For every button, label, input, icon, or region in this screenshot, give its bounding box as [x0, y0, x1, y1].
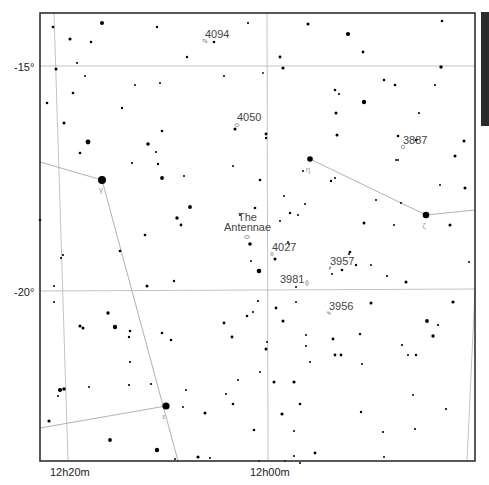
star-icon	[254, 207, 257, 210]
star-icon	[400, 202, 402, 204]
star-icon	[265, 348, 268, 351]
object-label: 3957	[330, 255, 354, 267]
star-icon	[185, 389, 187, 391]
star-icon	[161, 332, 164, 335]
star-icon	[362, 100, 366, 104]
star-icon	[108, 438, 112, 442]
star-icon	[299, 403, 302, 406]
star-icon	[437, 324, 439, 326]
star-icon	[414, 428, 416, 430]
star-icon	[441, 20, 444, 23]
star-chart: 409440503887TheAntennae4027395739813956 …	[0, 0, 489, 485]
star-icon	[282, 320, 285, 323]
star-icon	[72, 92, 75, 95]
star-icon	[84, 75, 86, 77]
declination-line	[40, 289, 475, 291]
star-icon	[336, 134, 339, 137]
star-icon	[175, 216, 178, 219]
star-icon	[183, 175, 185, 177]
star-icon	[439, 65, 442, 68]
constellation-line	[102, 180, 178, 461]
star-icon	[362, 51, 365, 54]
star-icon	[237, 379, 239, 381]
star-icon	[129, 330, 132, 333]
deep-sky-objects: 409440503887TheAntennae4027395739813956	[202, 28, 427, 315]
star-icon	[155, 448, 159, 452]
star-icon	[439, 184, 441, 186]
star-icon	[53, 301, 55, 303]
star-icon	[314, 452, 317, 455]
deep-sky-object[interactable]: 4094	[202, 28, 229, 43]
star-icon	[100, 21, 104, 25]
star-icon	[397, 159, 399, 161]
star-icon	[106, 311, 109, 314]
constellation-line	[310, 159, 426, 215]
star-icon	[265, 137, 267, 139]
star-icon	[454, 155, 457, 158]
star-icon	[334, 89, 337, 92]
star-icon	[121, 107, 123, 109]
star-icon	[341, 269, 344, 272]
star-icon	[468, 261, 470, 263]
star-icon	[90, 41, 93, 44]
star-icon	[423, 212, 430, 219]
star-icon	[331, 273, 333, 275]
deep-sky-object[interactable]: 3981	[280, 273, 308, 286]
star-icon	[361, 363, 363, 365]
star-icon	[180, 224, 183, 227]
star-icon	[232, 165, 234, 167]
star-icon	[146, 285, 149, 288]
star-icon	[434, 84, 436, 86]
star-icon	[62, 254, 64, 256]
star-icon	[259, 179, 262, 182]
star-icon	[52, 26, 55, 29]
deep-sky-object[interactable]: 3887	[401, 134, 427, 149]
star-icon	[57, 395, 59, 397]
right-ascension-line	[467, 290, 475, 461]
star-icon	[204, 412, 207, 415]
star-icon	[250, 260, 252, 262]
deep-sky-object[interactable]: 3957	[329, 255, 355, 270]
deep-sky-object[interactable]: Antennae	[224, 221, 271, 239]
deep-sky-object[interactable]: 3956	[327, 300, 354, 315]
star-icon	[186, 56, 188, 58]
star-icon	[170, 339, 173, 342]
right-ascension-label: 12h00m	[250, 466, 290, 478]
star-icon	[160, 176, 164, 180]
star-icon	[386, 275, 388, 277]
star-icon	[78, 324, 81, 327]
star-icon	[46, 102, 49, 105]
star-icon	[128, 384, 130, 386]
star-icon	[335, 112, 338, 115]
star-icon	[248, 242, 252, 246]
star-icon	[295, 301, 297, 303]
star-icon	[129, 361, 131, 363]
star-icon	[395, 159, 397, 161]
star-icon	[131, 162, 133, 164]
star-icon	[274, 258, 277, 261]
star-icon	[47, 419, 50, 422]
declination-label: -20°	[14, 286, 34, 298]
chart-frame	[40, 13, 475, 461]
star-icon	[275, 307, 278, 310]
star-icon	[334, 177, 336, 179]
star-icon	[445, 408, 447, 410]
star-icon	[79, 152, 82, 155]
star-icon	[119, 250, 122, 253]
star-icon	[370, 302, 373, 305]
galaxy-icon	[245, 236, 250, 239]
deep-sky-object[interactable]: 4050	[235, 111, 261, 127]
star-icon	[340, 354, 343, 357]
star-icon	[157, 163, 159, 165]
star-icon	[196, 455, 199, 458]
star-icon	[259, 371, 261, 373]
star-icon	[279, 56, 282, 59]
star-icon	[292, 380, 295, 383]
star-icon	[397, 135, 400, 138]
star-icon	[279, 220, 281, 222]
deep-sky-object[interactable]: 4027	[271, 241, 297, 256]
star-icon	[156, 26, 158, 28]
star-icon	[425, 319, 429, 323]
star-icon	[253, 429, 256, 432]
star-designation-label: ε	[162, 412, 166, 421]
